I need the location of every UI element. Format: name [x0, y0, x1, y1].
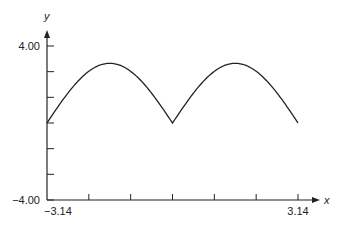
x-ticks [89, 194, 298, 200]
y-axis-arrow-icon [44, 30, 50, 38]
y-axis-label: y [43, 10, 51, 22]
y-max-label: 4.00 [19, 40, 40, 52]
chart: y x 4.00 −4.00 −3.14 3.14 [0, 0, 341, 230]
x-axis-arrow-icon [312, 197, 320, 203]
x-axis-label: x [323, 194, 330, 206]
x-max-label: 3.14 [287, 205, 308, 217]
y-min-label: −4.00 [12, 194, 40, 206]
x-min-label: −3.14 [44, 205, 72, 217]
data-curve [47, 63, 298, 123]
y-ticks [47, 46, 54, 200]
